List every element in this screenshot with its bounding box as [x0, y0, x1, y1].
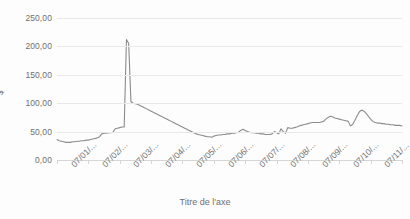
x-axis-labels: 07/01/...07/02/...07/03/...07/04/...07/0… — [57, 160, 402, 194]
x-tick-mark — [151, 160, 152, 164]
x-tick-mark — [339, 160, 340, 164]
y-axis-labels: 0,0050,00100,00150,00200,00250,00 — [0, 18, 52, 160]
x-tick-mark — [277, 160, 278, 164]
x-tick-mark — [57, 160, 58, 164]
x-tick-mark — [308, 160, 309, 164]
x-tick-mark — [245, 160, 246, 164]
y-tick-label: 0,00 — [35, 155, 52, 165]
x-tick-mark — [371, 160, 372, 164]
y-tick-label: 50,00 — [30, 127, 52, 137]
line-chart: 0,0050,00100,00150,00200,00250,00 $ 07/0… — [0, 0, 410, 219]
y-tick-label: 250,00 — [25, 13, 52, 23]
gridline — [57, 103, 402, 104]
y-axis-title: $ — [0, 91, 5, 96]
gridline — [57, 46, 402, 47]
plot-area — [57, 18, 402, 160]
y-tick-label: 200,00 — [25, 41, 52, 51]
x-tick-mark — [214, 160, 215, 164]
gridline — [57, 18, 402, 19]
gridline — [57, 132, 402, 133]
gridline — [57, 75, 402, 76]
y-tick-label: 100,00 — [25, 98, 52, 108]
x-tick-mark — [120, 160, 121, 164]
x-tick-mark — [88, 160, 89, 164]
x-tick-mark — [182, 160, 183, 164]
x-axis-title: Titre de l'axe — [0, 197, 410, 207]
y-tick-label: 150,00 — [25, 70, 52, 80]
series-line — [57, 18, 402, 160]
x-tick-mark — [402, 160, 403, 164]
